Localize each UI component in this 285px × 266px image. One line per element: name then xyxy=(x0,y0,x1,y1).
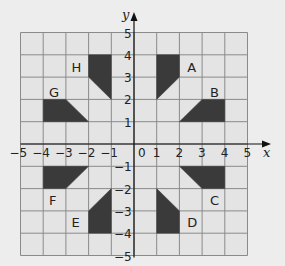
y-tick-label: −4 xyxy=(114,227,132,241)
x-tick-label: 2 xyxy=(175,146,183,160)
x-tick-label: 1 xyxy=(153,146,161,160)
x-tick-label: 5 xyxy=(244,146,252,160)
shape-label-g: G xyxy=(49,85,59,100)
y-tick-label: −5 xyxy=(114,250,132,264)
x-tick-label: −5 xyxy=(10,146,28,160)
x-tick-label: −2 xyxy=(78,146,96,160)
y-tick-label: −3 xyxy=(114,205,132,219)
y-tick-label: 2 xyxy=(124,93,132,107)
y-axis-label: y xyxy=(121,7,130,22)
y-axis-arrow-icon xyxy=(131,12,138,21)
x-tick-label: −1 xyxy=(100,146,118,160)
shape-label-f: F xyxy=(49,193,56,208)
shape-label-a: A xyxy=(187,60,196,75)
x-tick-label: 3 xyxy=(198,146,206,160)
shape-label-d: D xyxy=(187,215,197,230)
grid-plot: ABCDEFGH xy −5−4−3−2−101234554321−1−2−3−… xyxy=(0,0,285,266)
x-tick-label: −3 xyxy=(55,146,73,160)
coordinate-grid-diagram: ABCDEFGH xy −5−4−3−2−101234554321−1−2−3−… xyxy=(0,0,285,266)
y-tick-label: −2 xyxy=(114,183,132,197)
shape-label-e: E xyxy=(72,215,80,230)
x-tick-label: −4 xyxy=(32,146,50,160)
shape-label-h: H xyxy=(72,60,82,75)
x-tick-label: 4 xyxy=(221,146,229,160)
y-tick-label: 1 xyxy=(124,116,132,130)
y-tick-label: 4 xyxy=(124,49,132,63)
y-tick-label: −1 xyxy=(114,160,132,174)
y-tick-label: 5 xyxy=(124,27,132,41)
shape-label-c: C xyxy=(210,193,219,208)
shape-label-b: B xyxy=(210,85,219,100)
y-tick-label: 3 xyxy=(124,71,132,85)
x-axis-label: x xyxy=(263,145,271,160)
origin-label: 0 xyxy=(138,146,146,160)
